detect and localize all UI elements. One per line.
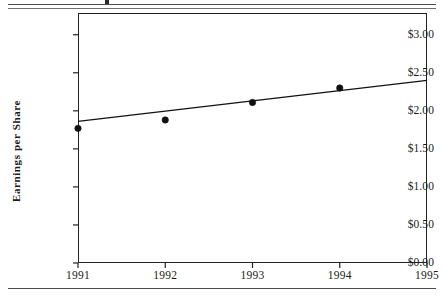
y-axis-title-text: Earnings per Share: [10, 99, 22, 201]
x-axis-tick-label: 1992: [135, 269, 195, 281]
y-axis-tick-label: $0.50: [368, 219, 442, 231]
y-axis-tick-label: $2.50: [368, 67, 442, 79]
y-axis-tick-label: $3.00: [368, 29, 442, 41]
y-axis-tick-label: $1.00: [368, 181, 442, 193]
x-axis-tick-label: 1991: [48, 269, 108, 281]
y-axis-tick-label: $0.00: [368, 257, 442, 269]
y-axis-tick-label: $1.50: [368, 143, 442, 155]
chart-figure: Earnings per Share $0.00$0.50$1.00$1.50$…: [0, 0, 442, 299]
y-axis-tick-label: $2.00: [368, 105, 442, 117]
x-axis-tick-label: 1994: [310, 269, 370, 281]
x-axis-tick-label: 1993: [223, 269, 283, 281]
x-axis-tick-label: 1995: [397, 269, 442, 281]
y-axis-title: Earnings per Share: [4, 78, 28, 223]
